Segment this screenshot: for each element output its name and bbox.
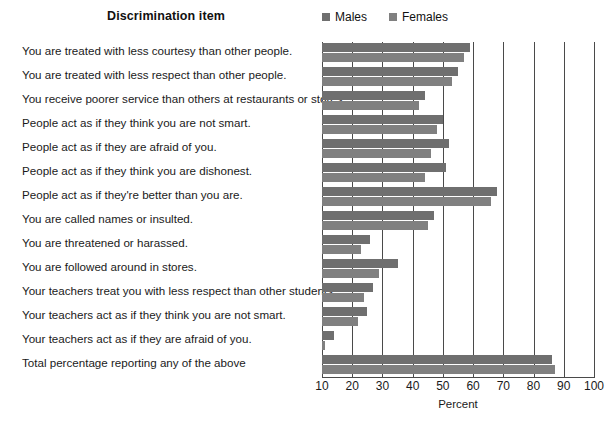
bar-females[interactable] — [322, 269, 379, 278]
bar-females[interactable] — [322, 125, 437, 134]
bar-males[interactable] — [322, 67, 458, 76]
x-tick-label-80: 80 — [527, 379, 540, 393]
bar-group — [322, 258, 594, 282]
x-tick-label-50: 50 — [436, 379, 449, 393]
legend-label: Males — [335, 10, 367, 24]
bar-group — [322, 90, 594, 114]
bar-males[interactable] — [322, 163, 446, 172]
legend-entry-females[interactable]: Females — [389, 10, 448, 24]
bar-males[interactable] — [322, 355, 552, 364]
bar-group — [322, 282, 594, 306]
x-axis-title: Percent — [322, 398, 594, 410]
chart-legend: MalesFemales — [322, 10, 448, 24]
bar-group — [322, 186, 594, 210]
bar-group — [322, 306, 594, 330]
bar-females[interactable] — [322, 221, 428, 230]
legend-swatch-icon — [389, 13, 397, 21]
discrimination-bar-chart: Discrimination item MalesFemales You are… — [0, 0, 611, 425]
category-label: Your teachers act as if they think you a… — [22, 308, 307, 321]
bar-females[interactable] — [322, 149, 431, 158]
category-label: Your teachers treat you with less respec… — [22, 284, 307, 297]
x-tick-label-60: 60 — [466, 379, 479, 393]
category-label: You are treated with less courtesy than … — [22, 44, 307, 57]
chart-header: Discrimination item MalesFemales — [0, 9, 611, 31]
bar-females[interactable] — [322, 101, 419, 110]
category-label: People act as if they think you are not … — [22, 116, 307, 129]
bar-females[interactable] — [322, 197, 491, 206]
bar-males[interactable] — [322, 139, 449, 148]
bar-group — [322, 66, 594, 90]
bar-females[interactable] — [322, 173, 425, 182]
category-label: People act as if they think you are dish… — [22, 164, 307, 177]
gridline-100 — [594, 42, 595, 378]
bar-males[interactable] — [322, 211, 434, 220]
category-label: You receive poorer service than others a… — [22, 92, 307, 105]
x-tick-label-30: 30 — [376, 379, 389, 393]
x-tick-label-100: 100 — [584, 379, 604, 393]
bar-males[interactable] — [322, 91, 425, 100]
legend-swatch-icon — [322, 13, 330, 21]
category-label: You are called names or insulted. — [22, 212, 307, 225]
bar-group — [322, 114, 594, 138]
x-tick-label-40: 40 — [406, 379, 419, 393]
bar-females[interactable] — [322, 293, 364, 302]
bar-males[interactable] — [322, 235, 370, 244]
bar-females[interactable] — [322, 365, 555, 374]
bar-females[interactable] — [322, 245, 361, 254]
bar-females[interactable] — [322, 53, 464, 62]
bar-females[interactable] — [322, 341, 325, 350]
legend-label: Females — [402, 10, 448, 24]
bar-males[interactable] — [322, 43, 470, 52]
bar-group — [322, 354, 594, 378]
x-tick-label-70: 70 — [497, 379, 510, 393]
category-label: You are treated with less respect than o… — [22, 68, 307, 81]
plot-area — [322, 42, 594, 378]
bar-group — [322, 42, 594, 66]
category-label: You are threatened or harassed. — [22, 236, 307, 249]
bar-group — [322, 138, 594, 162]
category-label: Your teachers act as if they are afraid … — [22, 332, 307, 345]
bar-group — [322, 234, 594, 258]
bar-group — [322, 330, 594, 354]
bar-group — [322, 162, 594, 186]
bar-males[interactable] — [322, 331, 334, 340]
x-axis-line — [322, 377, 594, 378]
bar-females[interactable] — [322, 317, 358, 326]
category-label: You are followed around in stores. — [22, 260, 307, 273]
bar-group — [322, 210, 594, 234]
x-axis-ticks: 102030405060708090100 — [322, 379, 594, 397]
x-tick-label-90: 90 — [557, 379, 570, 393]
bar-males[interactable] — [322, 115, 443, 124]
legend-entry-males[interactable]: Males — [322, 10, 367, 24]
bar-females[interactable] — [322, 77, 452, 86]
x-tick-label-20: 20 — [346, 379, 359, 393]
bar-males[interactable] — [322, 187, 497, 196]
category-label: Total percentage reporting any of the ab… — [22, 356, 307, 369]
bar-groups — [322, 42, 594, 378]
bar-males[interactable] — [322, 283, 373, 292]
category-label: People act as if they are afraid of you. — [22, 140, 307, 153]
category-axis-labels: You are treated with less courtesy than … — [0, 42, 316, 378]
page-title: Discrimination item — [20, 9, 312, 23]
bar-males[interactable] — [322, 307, 367, 316]
x-tick-label-10: 10 — [315, 379, 328, 393]
bar-males[interactable] — [322, 259, 398, 268]
category-label: People act as if they're better than you… — [22, 188, 307, 201]
